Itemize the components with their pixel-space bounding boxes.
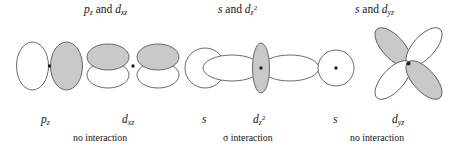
s-orbital-nucleus-dot [334,66,337,69]
note-no-interaction-2: no interaction [350,133,404,143]
label-subscript: xz [128,118,135,127]
d-yz-orbital [369,22,448,105]
label-d-z2: dz2 [253,114,265,127]
label-superscript: 2 [262,114,266,122]
heading-conjunction: and [362,3,379,15]
label-symbol: s [333,113,337,125]
heading-right-subscript: xz [121,8,128,17]
p-z-lobe-shaded [51,42,83,90]
note-sigma-interaction: σ interaction [223,133,273,143]
heading-right-superscript: 2 [254,4,258,12]
interaction-word: interaction [231,132,273,143]
heading-conjunction: and [96,3,113,15]
d-yz-nucleus-dot [407,62,411,66]
label-d-yz: dyz [392,114,404,127]
p-z-orbital [17,42,83,90]
d-z2-nucleus-dot [259,66,262,69]
d-xz-orbital [87,44,179,88]
d-z2-orbital [203,43,319,93]
label-s-middle: s [202,114,206,126]
p-z-nucleus-dot [48,64,51,67]
label-d-xz: dxz [122,114,134,127]
heading-conjunction: and [225,3,242,15]
label-subscript: yz [398,118,405,127]
label-p-z: pz [41,114,50,127]
heading-pz-and-dxz: pz and dxz [84,4,127,17]
d-xz-lobe-top-right-shaded [137,44,179,70]
label-symbol: s [202,113,206,125]
heading-right-subscript: yz [388,8,395,17]
d-xz-nucleus-dot [131,64,134,67]
label-s-right: s [333,114,337,126]
s-orbital-right [318,50,354,86]
orbital-diagram-canvas [0,18,457,123]
d-xz-lobe-top-left-shaded [87,44,129,70]
orbital-overlap-figure: pz and dxz s and dz2 s and dyz [0,0,457,150]
label-subscript: z [47,118,50,127]
note-no-interaction-1: no interaction [73,133,127,143]
p-z-lobe-unshaded [17,42,49,90]
heading-s-and-dyz: s and dyz [355,4,394,17]
heading-s-and-dz2: s and dz2 [218,4,257,17]
